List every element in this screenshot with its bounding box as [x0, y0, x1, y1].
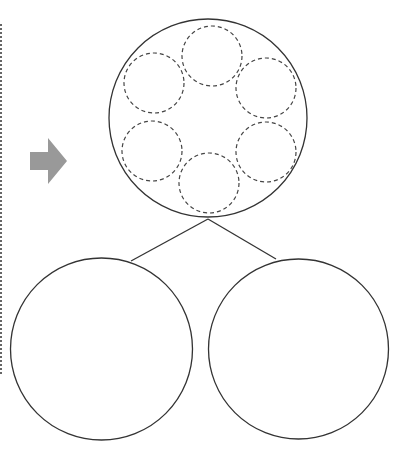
- inner-circle-upper-right: [236, 58, 296, 118]
- connector-line-right: [208, 219, 276, 259]
- connector-lines: [131, 219, 276, 261]
- right-arrow-icon: [30, 138, 67, 184]
- division-diagram: [0, 0, 404, 455]
- inner-circle-lower-right: [236, 122, 296, 182]
- diagram-canvas: [0, 0, 404, 455]
- parent-group: [109, 19, 307, 217]
- child-circle-right: [209, 259, 389, 439]
- inner-circle-upper-left: [124, 53, 184, 113]
- parent-circle: [109, 19, 307, 217]
- inner-circle-top: [182, 26, 242, 86]
- child-circle-left: [11, 258, 193, 440]
- child-group: [11, 258, 389, 440]
- inner-circle-lower-left: [122, 121, 182, 181]
- inner-circle-bottom: [179, 153, 239, 213]
- connector-line-left: [131, 219, 208, 261]
